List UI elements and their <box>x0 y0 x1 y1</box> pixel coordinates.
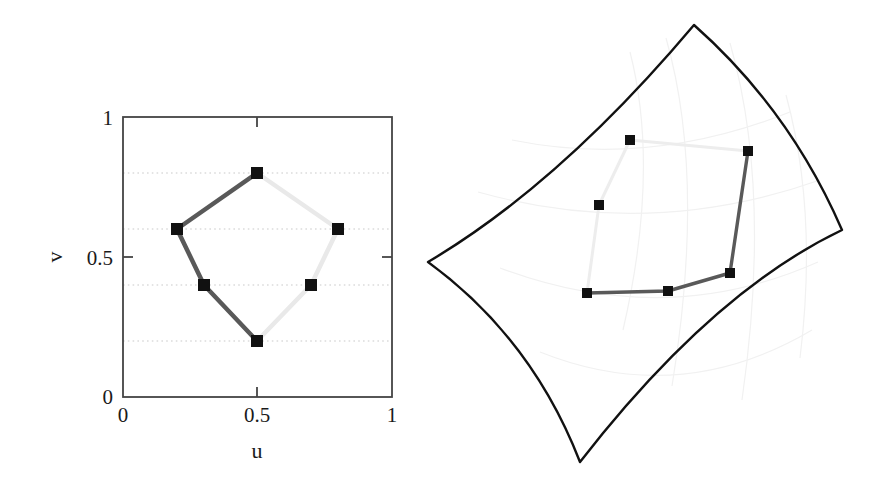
mapped-marker-5 <box>582 288 592 298</box>
mapped-point-markers <box>582 135 753 298</box>
isoparametric-curves <box>478 38 820 400</box>
xtick-label-1: 1 <box>387 403 398 427</box>
mapped-loop-dark <box>587 151 748 293</box>
trimming-loop-dark <box>177 173 257 341</box>
ytick-label-0: 0 <box>103 385 114 409</box>
patch-boundary <box>428 25 842 462</box>
mapped-marker-6 <box>663 286 673 296</box>
ytick-label-0.5: 0.5 <box>87 246 113 270</box>
tick-marks <box>123 117 392 397</box>
xtick-label-0: 0 <box>118 403 129 427</box>
figure-root: 1 0.5 0 0 0.5 1 u v <box>0 0 876 485</box>
marker-u0.3-v0.4 <box>198 279 210 291</box>
marker-u0.2-v0.6 <box>171 223 183 235</box>
parameter-domain-svg: 1 0.5 0 0 0.5 1 u v <box>0 0 440 485</box>
marker-u0.8-v0.6 <box>332 223 344 235</box>
marker-u0.5-v0.2 <box>251 335 263 347</box>
trimming-loop-light <box>257 173 338 341</box>
marker-u0.5-v0.8 <box>251 167 263 179</box>
ytick-label-1: 1 <box>103 106 114 130</box>
plot-frame <box>123 117 392 397</box>
parameter-domain-panel: 1 0.5 0 0 0.5 1 u v <box>0 0 440 485</box>
surface-patch-panel <box>420 0 876 485</box>
y-axis-label: v <box>42 252 67 263</box>
mapped-marker-3 <box>594 200 604 210</box>
iso-v-curve-2 <box>478 180 820 213</box>
mapped-marker-4 <box>725 268 735 278</box>
data-point-markers <box>171 167 344 347</box>
surface-patch-svg <box>420 0 876 485</box>
xtick-label-0.5: 0.5 <box>244 403 270 427</box>
mapped-loop-light-left <box>587 140 630 293</box>
mapped-marker-2 <box>743 146 753 156</box>
gridlines <box>123 173 392 341</box>
mapped-marker-1 <box>625 135 635 145</box>
x-axis-label: u <box>252 438 263 463</box>
marker-u0.7-v0.4 <box>305 279 317 291</box>
iso-u-curve-3 <box>730 43 755 400</box>
